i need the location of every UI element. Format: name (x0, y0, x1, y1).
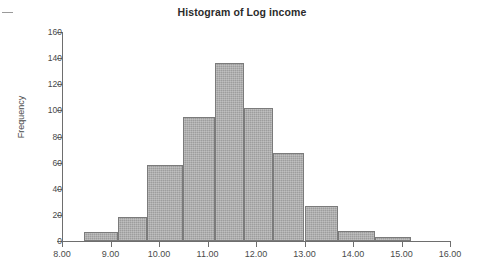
y-tick-label-wrap: 120 (0, 80, 62, 88)
y-tick-label: 0 (18, 237, 62, 245)
histogram-bar (244, 108, 273, 241)
x-tick-label: 11.00 (188, 249, 228, 259)
histogram-bar (215, 63, 244, 241)
histogram-bar (305, 206, 339, 241)
y-tick-label-wrap: 60 (0, 159, 62, 167)
y-tick-label-wrap: 0 (0, 237, 62, 245)
x-tick-mark (402, 242, 403, 247)
y-tick-label-wrap: 80 (0, 133, 62, 141)
histogram-bar (183, 117, 215, 241)
x-tick-label: 16.00 (430, 249, 470, 259)
y-axis-line (62, 32, 63, 242)
histogram-chart: Histogram of Log income Frequency 020406… (0, 0, 484, 271)
y-tick-label: 140 (18, 54, 62, 62)
x-tick-label: 13.00 (285, 249, 325, 259)
histogram-bar (375, 237, 411, 241)
histogram-bar (338, 231, 374, 241)
y-tick-label: 160 (18, 28, 62, 36)
y-axis-title: Frequency (16, 77, 26, 157)
y-tick-label-wrap: 40 (0, 185, 62, 193)
x-tick-mark (450, 242, 451, 247)
x-tick-label: 8.00 (42, 249, 82, 259)
x-tick-label: 14.00 (333, 249, 373, 259)
y-tick-label: 100 (18, 106, 62, 114)
x-tick-label: 9.00 (91, 249, 131, 259)
histogram-bar (118, 217, 147, 241)
x-tick-label: 12.00 (236, 249, 276, 259)
y-tick-label: 40 (18, 185, 62, 193)
y-tick-label: 80 (18, 133, 62, 141)
x-tick-mark (256, 242, 257, 247)
x-tick-label: 15.00 (382, 249, 422, 259)
y-tick-label: 60 (18, 159, 62, 167)
x-tick-mark (159, 242, 160, 247)
y-tick-label: 120 (18, 80, 62, 88)
y-tick-label-wrap: 100 (0, 106, 62, 114)
x-tick-mark (305, 242, 306, 247)
x-tick-mark (353, 242, 354, 247)
chart-title: Histogram of Log income (0, 6, 484, 18)
histogram-bar (84, 232, 118, 241)
y-tick-label-wrap: 160 (0, 28, 62, 36)
y-tick-label: 20 (18, 211, 62, 219)
y-tick-label-wrap: 140 (0, 54, 62, 62)
x-tick-mark (62, 242, 63, 247)
y-tick-label-wrap: 20 (0, 211, 62, 219)
histogram-bar (147, 165, 183, 241)
x-tick-mark (111, 242, 112, 247)
x-tick-label: 10.00 (139, 249, 179, 259)
x-tick-mark (208, 242, 209, 247)
histogram-bar (273, 153, 305, 241)
